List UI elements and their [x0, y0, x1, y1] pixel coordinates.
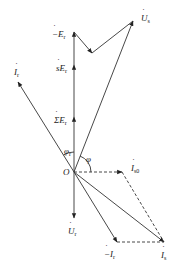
- label-ur: Ur: [68, 227, 77, 237]
- label-is: Is: [161, 251, 166, 261]
- label-phi: φ: [86, 155, 91, 164]
- label-neg-ir: −Ir: [104, 250, 115, 260]
- label-us: Us: [141, 14, 150, 24]
- vector-is: [74, 172, 164, 242]
- label-origin: O: [63, 168, 70, 177]
- phasor-diagram: Us −Er sEr Ir ΣEr φr φ O Is0 Ur −Ir Is: [0, 0, 184, 264]
- phasor-diagram-canvas: [0, 0, 184, 264]
- label-ir: Ir: [14, 68, 19, 78]
- vector-neg-ir: [74, 172, 117, 242]
- label-neg-er: −Er: [52, 30, 66, 40]
- label-phi-r: φr: [64, 147, 71, 157]
- vector-ir: [18, 82, 74, 172]
- dashed-is0-to-is: [122, 172, 164, 242]
- label-sum-er: ΣEr: [54, 116, 67, 126]
- label-is0: Is0: [131, 164, 139, 174]
- label-s-er: sEr: [56, 64, 67, 74]
- vector-zig-1: [74, 32, 92, 53]
